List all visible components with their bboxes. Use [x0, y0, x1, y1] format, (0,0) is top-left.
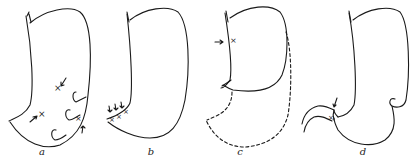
svg-text:×: × [38, 109, 46, 119]
panel-label-a: a [32, 146, 52, 157]
panel-a-drawing: × × × [9, 9, 90, 147]
panel-label-b: b [141, 146, 161, 157]
panel-c-drawing: × [206, 7, 291, 147]
panel-b-drawing: × × × [107, 8, 188, 138]
svg-text:×: × [54, 83, 62, 93]
svg-text:×: × [116, 113, 122, 121]
svg-text:×: × [123, 108, 129, 116]
panel-d-drawing: × [302, 8, 408, 144]
panel-label-d: d [353, 146, 373, 157]
svg-text:×: × [328, 114, 334, 122]
panel-label-c: c [230, 146, 250, 157]
svg-text:×: × [75, 114, 82, 123]
stomach-diagram-figure: × × × × × × × [0, 0, 414, 159]
svg-text:×: × [109, 116, 115, 124]
svg-text:×: × [230, 36, 237, 45]
